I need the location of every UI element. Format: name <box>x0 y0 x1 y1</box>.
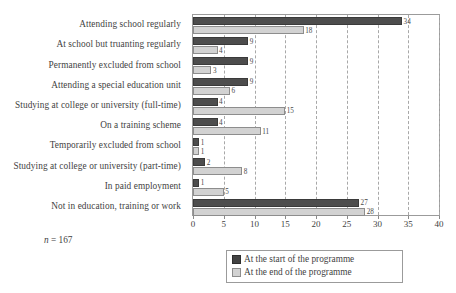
bar-start <box>193 179 199 187</box>
bar-end <box>193 188 224 196</box>
bar-value-label: 4 <box>219 98 223 106</box>
bar-value-label: 5 <box>225 188 229 196</box>
bar-end <box>193 26 304 34</box>
bar-start <box>193 57 248 65</box>
x-tick-label: 25 <box>342 219 351 230</box>
bar-start <box>193 17 402 25</box>
sample-size-note: n = 167 <box>44 235 73 246</box>
x-tick-label: 35 <box>404 219 413 230</box>
bar-value-label: 27 <box>361 199 368 207</box>
y-axis-label: Attending school regularly <box>0 19 181 29</box>
legend-item-end: At the end of the programme <box>232 266 397 279</box>
bar-start <box>193 118 218 126</box>
x-tick-label: 30 <box>373 219 382 230</box>
bar-end <box>193 87 230 95</box>
x-tick-label: 20 <box>312 219 321 230</box>
x-tick-label: 5 <box>222 219 227 230</box>
bar-value-label: 9 <box>250 78 254 86</box>
bar-value-label: 4 <box>219 47 223 55</box>
y-axis-label: At school but truanting regularly <box>0 39 181 49</box>
y-axis-label: Attending a special education unit <box>0 80 181 90</box>
bar-value-label: 9 <box>250 38 254 46</box>
x-tick-label: 0 <box>191 219 196 230</box>
y-axis-label: Not in education, training or work <box>0 201 181 211</box>
bar-series-group: 34189493964154111128152728 <box>193 15 439 215</box>
legend-item-end-label: At the end of the programme <box>244 267 352 278</box>
bar-start <box>193 78 248 86</box>
y-axis-label: In paid employment <box>0 181 181 191</box>
sample-size-value: = 167 <box>49 235 73 245</box>
bar-row: 93 <box>193 55 439 75</box>
bar-row: 415 <box>193 96 439 116</box>
bar-row: 96 <box>193 76 439 96</box>
x-axis: 0510152025303540 <box>192 216 440 232</box>
bar-row: 411 <box>193 116 439 136</box>
bar-value-label: 8 <box>244 168 248 176</box>
gridline-40 <box>439 15 441 215</box>
bar-value-label: 4 <box>219 119 223 127</box>
bar-end <box>193 66 211 74</box>
bar-value-label: 11 <box>262 128 269 136</box>
plot-area: 34189493964154111128152728 <box>192 14 440 216</box>
bar-value-label: 3 <box>213 67 217 75</box>
x-tick-label: 40 <box>435 219 444 230</box>
light-swatch-icon <box>232 268 241 277</box>
y-axis-label: Studying at college or university (part-… <box>0 161 181 171</box>
bar-row: 3418 <box>193 15 439 35</box>
legend: At the start of the programme At the end… <box>226 250 403 283</box>
bar-start <box>193 98 218 106</box>
y-axis-label: Studying at college or university (full-… <box>0 100 181 110</box>
x-tick-label: 10 <box>250 219 259 230</box>
y-axis-label: Temporarily excluded from school <box>0 140 181 150</box>
bar-row: 94 <box>193 35 439 55</box>
bar-start <box>193 138 199 146</box>
dark-swatch-icon <box>232 255 241 264</box>
bar-value-label: 9 <box>250 58 254 66</box>
x-tick-label: 15 <box>281 219 290 230</box>
bar-row: 28 <box>193 156 439 176</box>
bar-row: 2728 <box>193 197 439 217</box>
y-axis-label: On a training scheme <box>0 120 181 130</box>
bar-start <box>193 199 359 207</box>
bar-start <box>193 37 248 45</box>
bar-start <box>193 158 205 166</box>
bar-value-label: 15 <box>287 107 294 115</box>
bar-value-label: 1 <box>201 139 205 147</box>
bar-value-label: 18 <box>305 27 312 35</box>
bar-value-label: 1 <box>201 148 205 156</box>
y-axis-category-labels: Attending school regularlyAt school but … <box>0 14 186 216</box>
bar-end <box>193 147 199 155</box>
bar-end <box>193 107 285 115</box>
bar-row: 15 <box>193 177 439 197</box>
bar-end <box>193 46 218 54</box>
bar-value-label: 34 <box>404 18 411 26</box>
bar-row: 11 <box>193 136 439 156</box>
legend-item-start: At the start of the programme <box>232 253 397 266</box>
bar-end <box>193 208 365 216</box>
bar-end <box>193 167 242 175</box>
bar-end <box>193 127 261 135</box>
bar-chart: Attending school regularlyAt school but … <box>0 0 456 293</box>
bar-value-label: 1 <box>201 179 205 187</box>
y-axis-label: Permanently excluded from school <box>0 60 181 70</box>
bar-value-label: 2 <box>207 159 211 167</box>
bar-value-label: 6 <box>231 87 235 95</box>
legend-item-start-label: At the start of the programme <box>244 254 354 265</box>
